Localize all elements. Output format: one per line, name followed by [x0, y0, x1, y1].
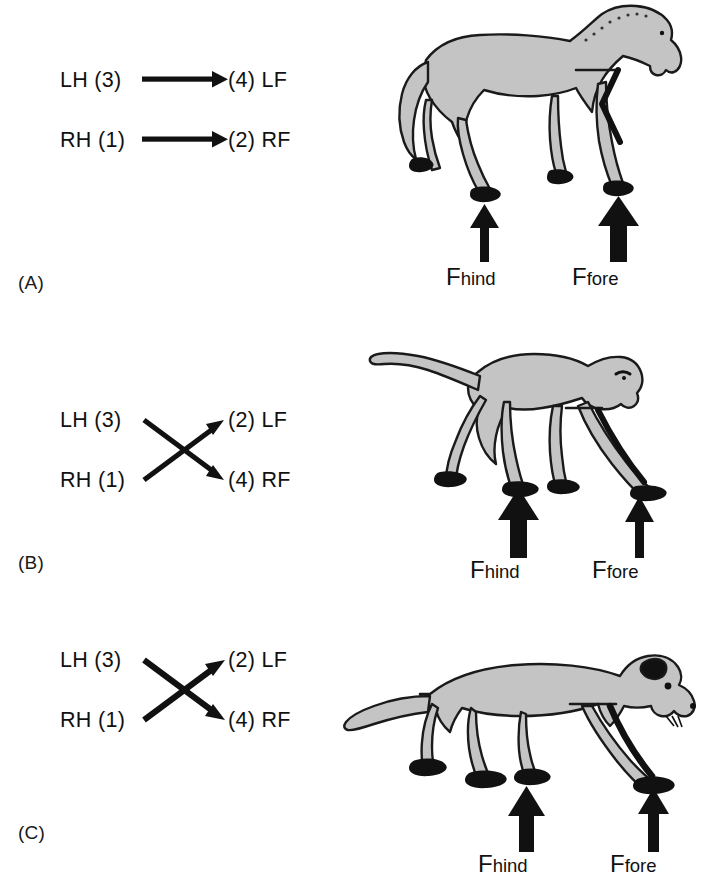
monkey-svg	[330, 330, 710, 560]
force-label-fore-a: Ffore	[572, 265, 619, 289]
sequence-arrows-a	[0, 0, 350, 200]
opossum-illustration: Fhind Ffore	[330, 620, 710, 882]
opossum-whiskers	[666, 716, 682, 727]
force-label-fore-b: Ffore	[592, 558, 639, 582]
monkey-illustration: Fhind Ffore	[330, 330, 710, 610]
force-arrow-hind-a	[470, 204, 499, 262]
limb-sequence-diagram-a: LH (3) (4) LF RH (1) (2) RF	[0, 0, 350, 320]
force-arrow-hind-c	[508, 786, 545, 852]
limb-sequence-diagram-b: LH (3) (2) LF RH (1) (4) RF	[0, 330, 350, 610]
panel-b: (B) LH (3) (2) LF RH (1) (4) RF	[0, 330, 710, 610]
opossum-svg	[330, 620, 710, 860]
horse-hooves	[409, 157, 634, 202]
force-label-hind-b: Fhind	[470, 558, 520, 582]
arrow-lh-to-lf	[142, 71, 228, 87]
arrow-rh-to-rf	[142, 131, 228, 147]
sequence-arrows-c	[0, 620, 350, 800]
force-arrow-fore-c	[638, 788, 669, 852]
sequence-arrows-b	[0, 330, 350, 560]
horse-illustration: Fhind Ffore	[380, 0, 710, 320]
opossum-eye	[665, 683, 672, 690]
horse-svg	[380, 0, 710, 260]
opossum-ear	[641, 659, 667, 679]
force-arrow-fore-b	[625, 496, 654, 558]
force-label-hind-c: Fhind	[478, 852, 528, 876]
force-label-hind-a: Fhind	[446, 265, 496, 289]
panel-c: (C) LH (3) (2) LF RH (1) (4) RF	[0, 620, 710, 882]
monkey-eye	[622, 376, 626, 380]
force-arrow-fore-a	[598, 196, 639, 262]
force-label-fore-c: Ffore	[610, 852, 657, 876]
opossum-nose	[690, 703, 696, 709]
force-arrow-hind-b	[498, 488, 539, 558]
horse-eye	[660, 31, 664, 35]
limb-sequence-diagram-c: LH (3) (2) LF RH (1) (4) RF	[0, 620, 350, 882]
panel-a: (A) LH (3) (4) LF RH (1) (2) RF	[0, 0, 710, 320]
